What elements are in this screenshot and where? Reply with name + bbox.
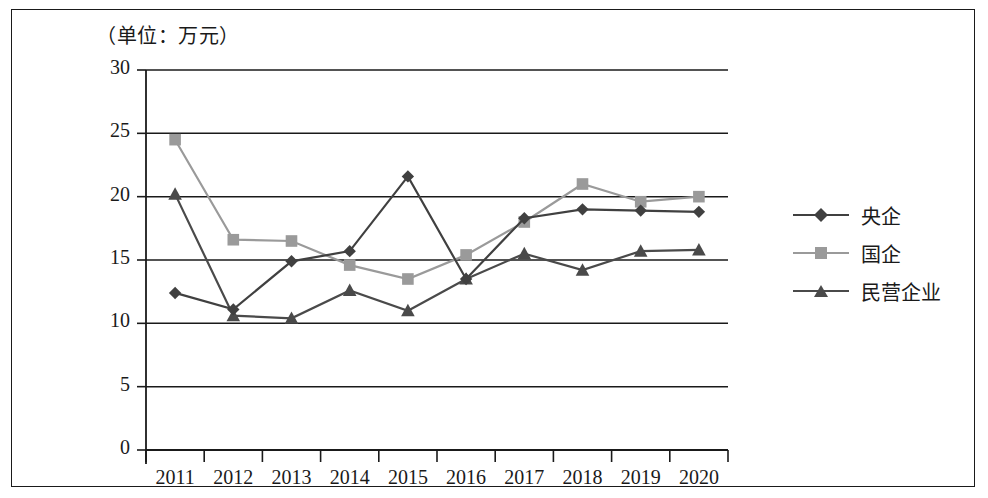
data-point-marker [460, 249, 472, 261]
y-axis-tick-label: 20 [68, 183, 130, 206]
data-point-marker [228, 234, 240, 246]
legend-label-0: 央企 [861, 201, 901, 230]
chart-legend: 央企 国企 民营企业 [793, 196, 963, 310]
chart-page: （单位：万元） 30252015105020112012201320142015… [0, 0, 988, 498]
data-point-marker [576, 203, 588, 215]
y-axis-tick-label: 10 [68, 309, 130, 332]
data-point-marker [169, 134, 181, 146]
legend-marker-triangle-icon [793, 281, 849, 301]
data-point-marker [693, 206, 705, 218]
data-point-marker [577, 178, 589, 190]
legend-item-state-owned-enterprise[interactable]: 国企 [793, 234, 963, 272]
y-axis-tick-label: 5 [68, 373, 130, 396]
y-axis-tick-label: 15 [68, 246, 130, 269]
data-point-marker [693, 191, 705, 203]
data-point-marker [168, 187, 182, 199]
data-point-marker [518, 247, 532, 259]
legend-marker-diamond-icon [793, 205, 849, 225]
legend-item-central-enterprise[interactable]: 央企 [793, 196, 963, 234]
data-point-marker [286, 235, 298, 247]
legend-label-1: 国企 [861, 239, 901, 268]
legend-label-2: 民营企业 [861, 277, 941, 306]
data-point-marker [343, 284, 357, 296]
data-point-marker [402, 273, 414, 285]
legend-item-private-enterprise[interactable]: 民营企业 [793, 272, 963, 310]
x-axis-tick-label: 2020 [659, 466, 739, 489]
data-point-marker [169, 287, 181, 299]
y-axis-tick-label: 0 [68, 436, 130, 459]
series-line [175, 194, 699, 318]
y-axis-tick-label: 25 [68, 119, 130, 142]
data-point-marker [344, 259, 356, 271]
series-triangle [168, 187, 705, 324]
y-axis-tick-label: 30 [68, 56, 130, 79]
legend-marker-square-icon [793, 243, 849, 263]
